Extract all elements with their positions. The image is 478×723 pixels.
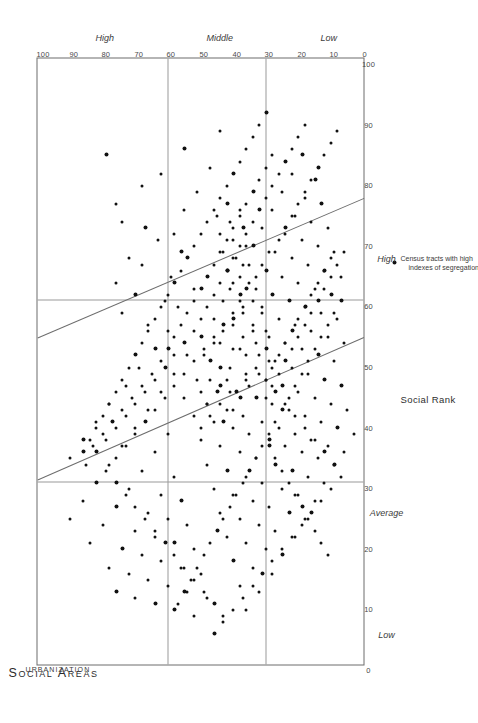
scatter-point [293,414,296,417]
scatter-point [146,511,149,514]
scatter-point [182,372,185,375]
scatter-point [251,220,254,223]
x-axis-tick-label: 10 [329,50,338,59]
y-axis-tick-label: 20 [364,544,373,553]
scatter-point [296,281,299,284]
scatter-point [244,202,247,205]
scatter-point [172,353,175,356]
scatter-point [159,305,162,308]
scatter-point [267,505,270,508]
scatter-point [153,378,156,381]
scatter-point [127,256,130,259]
scatter-point [212,601,216,605]
scatter-point [283,444,286,447]
scatter-point [143,517,146,520]
scatter-point [107,463,110,466]
scatter-point [228,287,231,290]
scatter-point [251,243,255,247]
scatter-point [313,499,316,502]
y-axis-tick-label: 0 [366,665,370,674]
scatter-point [287,298,291,302]
scatter-point [146,323,149,326]
scatter-point [313,438,316,441]
scatter-point [124,444,127,447]
scatter-point [264,268,268,272]
scatter-point [140,553,143,556]
scatter-point [290,256,293,259]
scatter-point [352,432,355,435]
scatter-point [205,402,208,405]
scatter-point [273,389,277,393]
scatter-point [270,153,273,156]
scatter-point [231,171,235,175]
scatter-point [231,608,234,611]
scatter-point [251,499,254,502]
x-axis-tick-label: 50 [199,50,208,59]
scatter-point [192,547,195,550]
scatter-point [68,517,71,520]
scatter-point [306,360,309,363]
scatter-point [290,535,293,538]
scatter-point [172,384,175,387]
scatter-point [166,346,170,350]
scatter-point [114,390,117,393]
scatter-point [244,475,247,478]
scatter-point [329,487,332,490]
scatter-point [172,540,176,544]
scatter-point [159,559,162,562]
scatter-point [189,578,192,581]
scatter-point [182,396,185,399]
scatter-point [342,341,345,344]
scatter-point [296,390,299,393]
scatter-point [241,225,245,229]
scatter-point [192,287,195,290]
scatter-point [140,341,143,344]
scatter-point [296,135,299,138]
scatter-point [280,275,283,278]
scatter-point [257,353,260,356]
scatter-point [231,408,234,411]
scatter-point [192,299,195,302]
scatter-point [251,299,254,302]
scatter-point [280,383,284,387]
scatter-point [208,359,212,363]
scatter-point [287,396,290,399]
scatter-point [260,571,264,575]
scatter-point [264,378,267,381]
scatter-point [159,390,162,393]
scatter-point [205,220,208,223]
scatter-point [273,420,276,423]
scatter-point [309,178,312,181]
scatter-point [120,546,124,550]
scatter-point [280,469,283,472]
scatter-point [218,232,221,235]
scatter-point [124,414,127,417]
scatter-point [238,299,241,302]
y-axis-tick-label: 70 [364,241,373,250]
scatter-point [260,305,263,308]
scatter-point [221,329,224,332]
scatter-point [309,220,312,223]
scatter-point [342,450,345,453]
scatter-point [192,244,195,247]
scatter-point [179,498,183,502]
scatter-point [280,487,283,490]
scatter-point [202,590,205,593]
scatter-point [293,384,296,387]
scatter-point [221,299,224,302]
scatter-point [300,238,303,241]
scatter-point [322,268,326,272]
scatter-point [238,347,241,350]
scatter-point [283,402,286,405]
scatter-point [225,184,228,187]
scatter-point [247,384,250,387]
scatter-point [290,328,294,332]
x-axis-tick-label: 60 [166,50,175,59]
scatter-point [290,468,294,472]
scatter-point [166,432,169,435]
x-axis-tick-label: 30 [264,50,273,59]
scatter-point [322,287,325,290]
scatter-point [225,378,228,381]
scatter-point [309,293,312,296]
scatter-point [202,553,205,556]
